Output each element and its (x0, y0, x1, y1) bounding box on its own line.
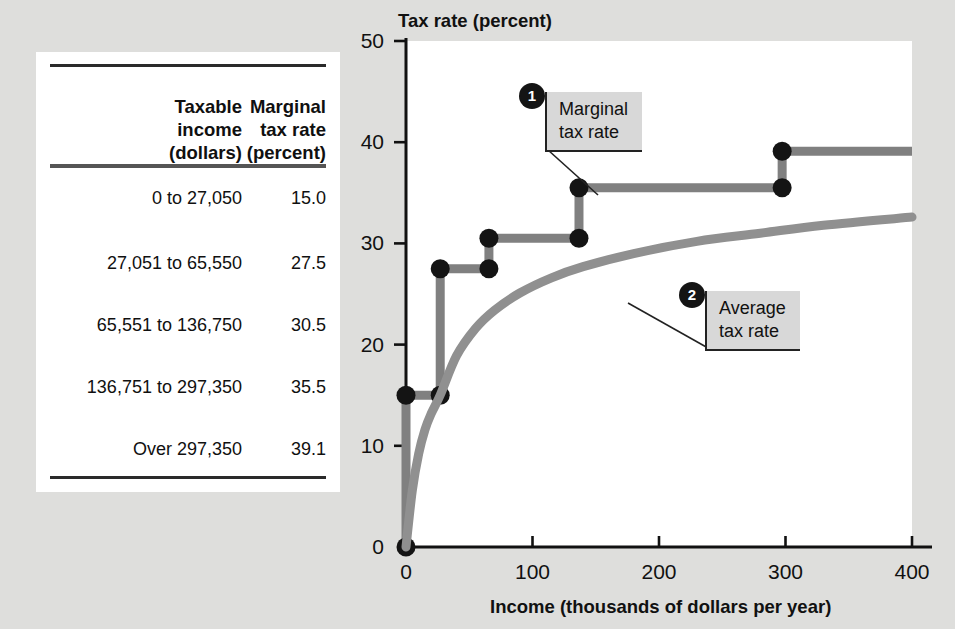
series-group (397, 142, 913, 557)
marker-badge-1-icon: 1 (519, 83, 545, 109)
data-point-marker (431, 259, 450, 278)
data-point-marker (773, 142, 792, 161)
x-tick-label: 0 (376, 561, 436, 582)
y-tick-label: 0 (338, 536, 384, 557)
data-point-marker (569, 178, 588, 197)
y-tick-label: 20 (338, 334, 384, 355)
callout-line-1: Average (719, 298, 786, 318)
y-tick-label: 40 (338, 131, 384, 152)
callout-line-2: tax rate (719, 321, 779, 341)
data-point-marker (397, 386, 416, 405)
x-tick-label: 400 (882, 561, 942, 582)
plot-svg (0, 0, 955, 629)
callout-average-tax-rate: Average tax rate (705, 291, 800, 351)
callout-leader-lines (548, 150, 708, 348)
leader-line-average (628, 303, 708, 348)
series-line-marginal-tax-rate (406, 151, 912, 547)
data-point-marker (479, 259, 498, 278)
y-tick-label: 10 (338, 435, 384, 456)
axes-group (394, 38, 932, 548)
callout-line-2: tax rate (559, 122, 619, 142)
x-tick-label: 200 (629, 561, 689, 582)
x-tick-label: 100 (503, 561, 563, 582)
x-tick-label: 300 (756, 561, 816, 582)
figure-root: Taxable income (dollars) Marginal tax ra… (0, 0, 955, 629)
data-point-marker (479, 229, 498, 248)
tax-rate-chart: Tax rate (percent) Income (thousands of … (0, 0, 955, 629)
callout-line-1: Marginal (559, 99, 628, 119)
y-tick-label: 30 (338, 232, 384, 253)
y-tick-label: 50 (338, 30, 384, 51)
data-point-marker (773, 178, 792, 197)
data-point-marker (569, 229, 588, 248)
callout-marginal-tax-rate: Marginal tax rate (545, 92, 642, 152)
marker-badge-2-icon: 2 (679, 282, 705, 308)
